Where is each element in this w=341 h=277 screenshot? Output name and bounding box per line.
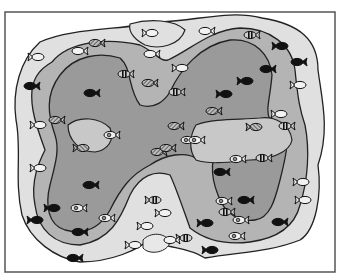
fish-habitat-diagram [0, 0, 341, 277]
